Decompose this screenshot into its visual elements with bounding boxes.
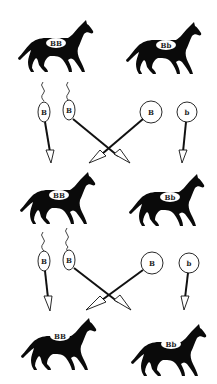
arrow-head <box>46 150 54 163</box>
gamete-allele: B <box>66 256 72 265</box>
horse-gen2-right: Bb <box>129 174 204 226</box>
arrow-line <box>45 271 48 298</box>
gamete-allele: b <box>185 108 190 117</box>
arrow-head <box>44 296 52 311</box>
arrow-head <box>181 296 189 310</box>
arrow-line <box>45 122 50 152</box>
gamete-allele: B <box>41 257 47 266</box>
arrow-line <box>102 270 143 300</box>
gametes-gen2: B B B b <box>38 228 199 311</box>
gametes-gen1: B B B b <box>38 82 197 163</box>
genotype-label: Bb <box>161 41 172 50</box>
arrow-head <box>179 150 187 163</box>
genotype-label: Bb <box>165 193 176 202</box>
arrow-line <box>102 119 143 154</box>
arrow-line <box>73 119 118 156</box>
horse-gen3-left: BB <box>21 318 96 370</box>
horse-gen1-left: BB <box>18 20 93 72</box>
gamete-allele: B <box>148 108 154 117</box>
sperm-tail <box>66 228 70 252</box>
horse-gen1-right: Bb <box>126 22 201 74</box>
arrow-head <box>114 149 130 163</box>
horse-gen3-right: Bb <box>131 324 206 376</box>
genotype-label: Bb <box>166 340 177 349</box>
genotype-label: BB <box>54 332 66 341</box>
gamete-allele: b <box>187 259 192 268</box>
genotype-label: BB <box>50 39 62 48</box>
arrow-line <box>183 122 186 152</box>
arrow-line <box>185 273 188 298</box>
gamete-allele: B <box>149 259 155 268</box>
sperm-tail <box>42 232 45 251</box>
gamete-allele: B <box>41 108 47 117</box>
genetics-diagram: BB Bb B B B b BB Bb <box>0 0 217 384</box>
arrow-line <box>74 268 118 302</box>
sperm-tail <box>67 82 70 101</box>
arrow-head <box>114 295 131 310</box>
sperm-tail <box>42 82 45 101</box>
horse-gen2-left: BB <box>20 172 95 224</box>
genotype-label: BB <box>53 191 65 200</box>
gamete-allele: B <box>66 106 72 115</box>
